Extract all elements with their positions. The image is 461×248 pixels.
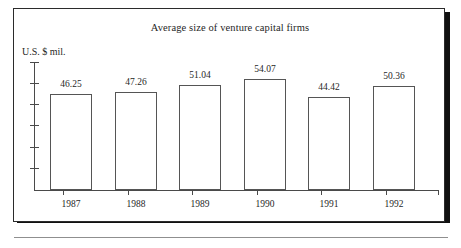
y-axis-tick: [30, 125, 39, 126]
x-axis-label-1992: 1992: [369, 199, 419, 209]
chart-figure-frame: Average size of venture capital firms U.…: [13, 8, 445, 222]
x-axis-tick: [438, 190, 439, 195]
y-axis-tick: [30, 147, 39, 148]
x-axis-tick: [128, 190, 129, 195]
bar-value-1987: 46.25: [46, 79, 96, 89]
x-axis-label-1990: 1990: [240, 199, 290, 209]
x-axis-tick: [321, 190, 322, 195]
y-axis-tick: [30, 83, 39, 84]
x-axis-label-1988: 1988: [111, 199, 161, 209]
y-axis-top-cap: [30, 62, 39, 63]
bar-value-1988: 47.26: [111, 77, 161, 87]
y-axis-tick: [30, 104, 39, 105]
x-axis-tick: [386, 190, 387, 195]
x-axis-label-1989: 1989: [175, 199, 225, 209]
bar-1987: [50, 94, 92, 190]
x-axis-label-1987: 1987: [46, 199, 96, 209]
bar-1990: [244, 79, 286, 190]
bar-1988: [115, 92, 157, 190]
bar-1989: [179, 85, 221, 190]
x-axis-tick: [192, 190, 193, 195]
bar-value-1990: 54.07: [240, 64, 290, 74]
x-axis-tick: [257, 190, 258, 195]
x-axis-tick: [63, 190, 64, 195]
bar-value-1989: 51.04: [175, 70, 225, 80]
horizontal-rule: [14, 237, 448, 238]
bar-1991: [308, 97, 350, 190]
plot-area: 46.25 1987 47.26 1988 51.04 1989 54.07 1…: [14, 9, 446, 223]
bar-1992: [373, 86, 415, 190]
x-axis-label-1991: 1991: [304, 199, 354, 209]
bar-value-1992: 50.36: [369, 71, 419, 81]
bar-value-1991: 44.42: [304, 82, 354, 92]
x-axis-line: [34, 190, 438, 191]
y-axis-line: [34, 62, 35, 190]
y-axis-tick: [30, 168, 39, 169]
